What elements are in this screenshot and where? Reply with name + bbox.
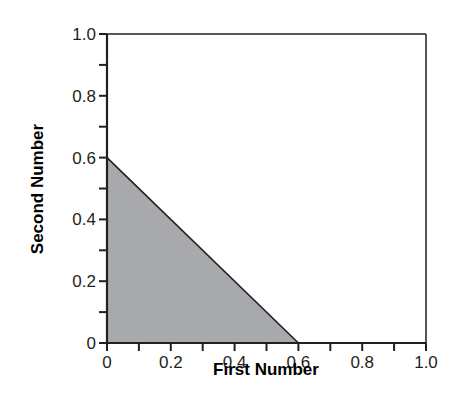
x-axis-title: First Number — [213, 360, 319, 379]
chart-svg: 00.20.40.60.81.000.20.40.60.81.0 First N… — [0, 0, 455, 419]
y-tick-label: 0.8 — [72, 87, 96, 106]
y-tick-label: 0 — [87, 334, 96, 353]
y-tick-label: 0.2 — [72, 272, 96, 291]
x-tick-label: 0.8 — [350, 353, 374, 372]
y-tick-label: 0.4 — [72, 210, 96, 229]
y-axis-title: Second Number — [28, 123, 47, 254]
y-tick-label: 0.6 — [72, 149, 96, 168]
x-tick-label: 1.0 — [414, 353, 438, 372]
y-tick-label: 1.0 — [72, 25, 96, 44]
x-tick-label: 0 — [102, 353, 111, 372]
plot-area: 00.20.40.60.81.000.20.40.60.81.0 — [72, 25, 437, 372]
x-tick-label: 0.2 — [159, 353, 183, 372]
